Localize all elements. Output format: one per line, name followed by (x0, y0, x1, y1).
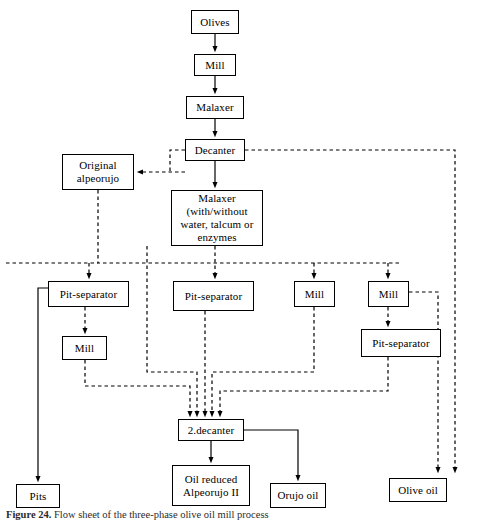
edge-decanter-to-olive-oil (245, 150, 455, 470)
edge-pit-separator-left-to-pits (38, 288, 48, 479)
node-mill-mid[interactable]: Mill (294, 281, 335, 307)
node-malaxer-top[interactable]: Malaxer (186, 96, 244, 119)
node-malaxer-main[interactable]: Malaxer (with/without water, talcum or e… (171, 190, 263, 246)
node-oil-reduced-alpeorujo[interactable]: Oil reduced Alpeorujo II (172, 465, 250, 506)
node-orujo-oil-label: Orujo oil (278, 489, 319, 502)
node-mill-top[interactable]: Mill (194, 54, 236, 76)
node-mill-right[interactable]: Mill (368, 281, 409, 307)
figure-caption-text: Flow sheet of the three-phase olive oil … (54, 509, 269, 520)
figure-caption-label: Figure 24. (6, 509, 51, 520)
node-malaxer-main-line3: water, talcum or (181, 218, 254, 231)
node-olive-oil[interactable]: Olive oil (389, 478, 447, 502)
edge-malaxer-bypass-to-second-decanter (147, 246, 197, 414)
node-pit-separator-mid-label: Pit-separator (185, 290, 243, 303)
flow-connectors (0, 0, 478, 525)
node-olives[interactable]: Olives (191, 10, 239, 34)
node-olive-oil-label: Olive oil (398, 484, 438, 497)
node-malaxer-main-line1: Malaxer (198, 192, 235, 205)
node-decanter[interactable]: Decanter (185, 139, 245, 161)
node-pit-separator-left-label: Pit-separator (60, 288, 118, 301)
node-original-alpeorujo-line2: alpeorujo (77, 172, 119, 185)
node-pit-separator-right[interactable]: Pit-separator (361, 329, 441, 357)
node-second-decanter-label: 2.decanter (188, 424, 235, 437)
edge-second-decanter-to-orujo-oil (244, 430, 298, 478)
node-pits[interactable]: Pits (16, 484, 60, 508)
node-malaxer-main-line4: enzymes (197, 231, 236, 244)
node-orujo-oil[interactable]: Orujo oil (270, 483, 326, 508)
node-mill-top-label: Mill (205, 59, 224, 72)
node-decanter-label: Decanter (195, 144, 236, 157)
figure-caption: Figure 24. Flow sheet of the three-phase… (6, 508, 476, 521)
edge-pit-separator-right-to-second-decanter (220, 357, 388, 414)
node-pits-label: Pits (30, 490, 47, 503)
edge-decanter-drop-to-alpeorujo-level (170, 150, 185, 172)
node-original-alpeorujo[interactable]: Original alpeorujo (62, 154, 134, 190)
node-pit-separator-mid[interactable]: Pit-separator (173, 281, 254, 311)
node-mill-right-label: Mill (379, 288, 398, 301)
node-oil-reduced-alpeorujo-line2: Alpeorujo II (183, 486, 239, 499)
node-mill-left-lower[interactable]: Mill (62, 336, 107, 360)
node-mill-mid-label: Mill (305, 288, 324, 301)
node-original-alpeorujo-line1: Original (79, 159, 116, 172)
node-second-decanter[interactable]: 2.decanter (178, 419, 244, 441)
node-pit-separator-right-label: Pit-separator (372, 337, 430, 350)
edge-mill-mid-to-second-decanter (212, 307, 314, 414)
node-malaxer-main-line2: (with/without (186, 205, 247, 218)
node-pit-separator-left[interactable]: Pit-separator (48, 281, 129, 307)
edge-mill-left-lower-to-second-decanter (85, 360, 190, 414)
node-malaxer-top-label: Malaxer (196, 101, 233, 114)
edge-mill-right-to-olive-oil (409, 292, 438, 470)
node-oil-reduced-alpeorujo-line1: Oil reduced (185, 473, 238, 486)
figure-flow-diagram: Olives Mill Malaxer Decanter Original al… (0, 0, 478, 525)
node-olives-label: Olives (200, 16, 229, 29)
node-mill-left-lower-label: Mill (75, 342, 94, 355)
